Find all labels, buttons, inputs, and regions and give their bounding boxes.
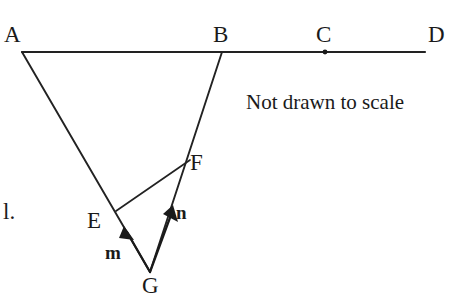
- point-label-e: E: [87, 209, 101, 232]
- point-marker-c: [323, 50, 328, 55]
- vector-m-arrowhead: [119, 226, 134, 240]
- vector-n-shaft: [150, 215, 171, 272]
- point-label-g: G: [142, 274, 159, 297]
- stray-text-fragment: l.: [3, 200, 15, 223]
- point-label-d: D: [428, 23, 445, 46]
- point-label-c: C: [316, 23, 331, 46]
- vector-label-m: m: [105, 243, 121, 262]
- point-label-b: B: [213, 23, 228, 46]
- point-label-f: F: [190, 151, 203, 174]
- not-to-scale-note: Not drawn to scale: [246, 92, 404, 113]
- geometry-figure: A B C D E F G m n Not drawn to scale l.: [0, 0, 453, 300]
- vector-label-n: n: [176, 203, 187, 222]
- point-label-a: A: [4, 23, 21, 46]
